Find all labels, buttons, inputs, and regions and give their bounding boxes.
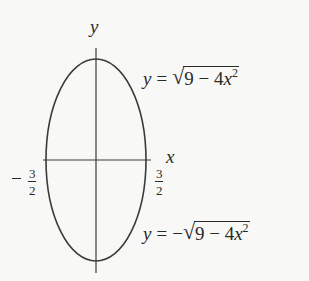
lower-equation: y = − √ 9 − 4x2	[143, 221, 250, 243]
eq-lhs: y	[143, 224, 151, 243]
ellipse-diagram: y x 3 2 3 2 y = √ 9 − 4x2 y = − √ 9 − 4x…	[0, 0, 309, 281]
tick-left-fraction: 3 2	[28, 167, 37, 197]
eq-lhs: y	[143, 69, 151, 88]
tick-left-minus	[12, 178, 21, 179]
eq-equals: =	[156, 69, 167, 88]
radicand-constant: 9 − 4	[184, 68, 223, 89]
upper-equation: y = √ 9 − 4x2	[143, 66, 239, 88]
radical: √ 9 − 4x2	[183, 221, 250, 243]
x-axis-label: x	[166, 147, 174, 166]
exponent: 2	[232, 66, 238, 80]
tick-right-fraction: 3 2	[155, 167, 164, 197]
tick-right-denominator: 2	[156, 182, 163, 197]
tick-left-denominator: 2	[29, 182, 36, 197]
radicand: 9 − 4x2	[183, 66, 239, 88]
y-axis-label: y	[90, 17, 98, 36]
radicand-variable: x	[223, 68, 231, 89]
exponent: 2	[243, 221, 249, 235]
radical: √ 9 − 4x2	[172, 66, 239, 88]
radicand-constant: 9 − 4	[195, 223, 234, 244]
tick-left-numerator: 3	[28, 167, 37, 181]
eq-negative-sign: −	[172, 224, 183, 243]
eq-equals: =	[156, 224, 167, 243]
tick-right-numerator: 3	[155, 167, 164, 181]
radicand: 9 − 4x2	[194, 221, 250, 243]
radicand-variable: x	[234, 223, 242, 244]
